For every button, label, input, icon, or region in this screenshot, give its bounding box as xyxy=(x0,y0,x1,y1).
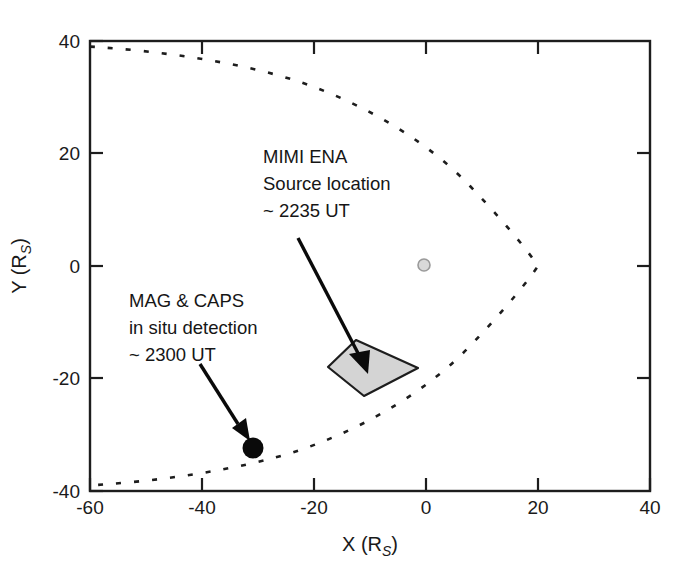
y-tick-label: 40 xyxy=(59,31,80,52)
saturn-planet-marker xyxy=(418,259,430,271)
y-tick-label: 20 xyxy=(59,143,80,164)
y-axis-major-ticks xyxy=(90,41,103,491)
y-tick-label: -20 xyxy=(53,368,80,389)
x-tick-label: 20 xyxy=(527,497,548,518)
mag-caps-line-1: MAG & CAPS xyxy=(129,290,244,311)
y-axis-tick-labels: 40 20 0 -20 -40 xyxy=(53,31,80,502)
svg-text:Y (RS): Y (RS) xyxy=(8,238,34,294)
mimi-ena-line-3: ~ 2235 UT xyxy=(263,200,350,221)
x-axis-top-major-ticks xyxy=(202,41,538,54)
mimi-ena-line-1: MIMI ENA xyxy=(263,146,348,167)
mimi-ena-arrow xyxy=(298,238,370,374)
x-tick-label: 0 xyxy=(421,497,432,518)
x-axis-tick-labels: -60 -40 -20 0 20 40 xyxy=(76,497,660,518)
x-tick-label: -40 xyxy=(188,497,215,518)
y-axis-title: Y (RS) xyxy=(8,238,34,294)
mimi-ena-annotation-text: MIMI ENA Source location ~ 2235 UT xyxy=(263,146,391,221)
in-situ-detection-marker xyxy=(243,438,264,459)
x-tick-label: 40 xyxy=(639,497,660,518)
mag-caps-line-3: ~ 2300 UT xyxy=(129,344,216,365)
y-axis-title-paren: ) xyxy=(8,238,30,245)
y-tick-label: 0 xyxy=(69,256,80,277)
mag-caps-line-2: in situ detection xyxy=(129,317,258,338)
x-tick-label: -60 xyxy=(76,497,103,518)
x-axis-major-ticks xyxy=(90,478,650,491)
x-axis-title-paren: ) xyxy=(391,533,398,555)
scatter-plot-canvas: -60 -40 -20 0 20 40 40 20 0 -20 -40 X (R… xyxy=(0,0,687,568)
ena-source-region-polygon xyxy=(328,340,418,396)
svg-text:X (RS): X (RS) xyxy=(342,533,398,559)
x-axis-title-main: X (R xyxy=(342,533,382,555)
y-axis-title-main: Y (R xyxy=(8,254,30,294)
y-tick-label: -40 xyxy=(53,481,80,502)
y-axis-right-major-ticks xyxy=(637,153,650,378)
mag-caps-annotation-text: MAG & CAPS in situ detection ~ 2300 UT xyxy=(129,290,258,365)
x-tick-label: -20 xyxy=(300,497,327,518)
figure-root: -60 -40 -20 0 20 40 40 20 0 -20 -40 X (R… xyxy=(0,0,687,568)
mag-caps-arrow xyxy=(200,364,250,441)
x-axis-title: X (RS) xyxy=(342,533,398,559)
plot-frame xyxy=(90,41,650,491)
mimi-ena-line-2: Source location xyxy=(263,173,391,194)
